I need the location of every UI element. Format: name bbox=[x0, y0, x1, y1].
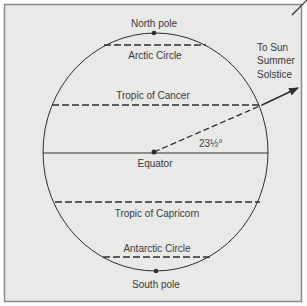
sun-label-line2: Summer bbox=[257, 55, 295, 66]
earth-tilt-diagram: North pole Arctic Circle Tropic of Cance… bbox=[0, 0, 307, 306]
south-pole-label: South pole bbox=[132, 279, 180, 290]
arctic-circle-label: Arctic Circle bbox=[128, 50, 182, 61]
equator-label: Equator bbox=[137, 158, 173, 169]
south-pole-dot bbox=[154, 269, 159, 274]
north-pole-label: North pole bbox=[131, 18, 178, 29]
tilt-angle-label: 23½° bbox=[199, 138, 222, 149]
tropic-of-cancer-label: Tropic of Cancer bbox=[116, 90, 190, 101]
antarctic-circle-label: Antarctic Circle bbox=[123, 243, 191, 254]
north-pole-dot bbox=[152, 31, 157, 36]
sun-label-line3: Solstice bbox=[257, 69, 292, 80]
sun-label-line1: To Sun bbox=[257, 42, 288, 53]
tropic-of-capricorn-label: Tropic of Capricorn bbox=[115, 208, 200, 219]
earth-center-dot bbox=[152, 150, 157, 155]
